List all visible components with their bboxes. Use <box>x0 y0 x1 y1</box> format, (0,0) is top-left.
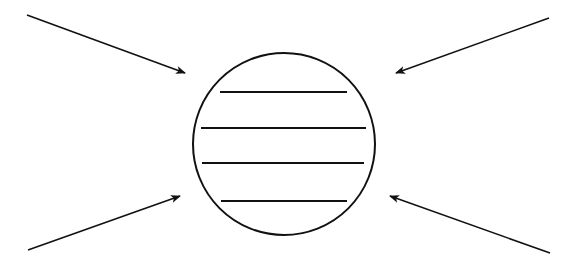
arrow-top-right-icon <box>396 18 549 73</box>
arrows-group <box>27 15 550 253</box>
arrow-bottom-right-icon <box>390 196 550 253</box>
horizontal-lines-group <box>201 92 366 201</box>
arrow-top-left-icon <box>27 15 185 73</box>
arrow-bottom-left-icon <box>28 196 180 250</box>
diagram-canvas <box>0 0 574 271</box>
sphere-circle <box>193 53 375 235</box>
